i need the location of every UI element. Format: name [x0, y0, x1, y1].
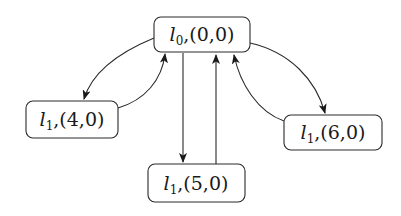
state-node-l0-0-0: l0,(0,0) [154, 17, 250, 52]
clock-valuation: ,(6,0) [314, 121, 365, 143]
clock-valuation: ,(4,0) [53, 108, 104, 130]
clock-valuation: ,(5,0) [177, 172, 228, 194]
state-node-l1-5-0: l1,(5,0) [148, 164, 245, 202]
edge-n3-to-n0 [234, 55, 284, 121]
location-subscript: 1 [307, 132, 315, 146]
location-subscript: 1 [46, 119, 54, 133]
location-subscript: 1 [170, 183, 178, 197]
state-node-l1-6-0: l1,(6,0) [284, 115, 382, 150]
edge-n0-to-n1 [84, 38, 154, 99]
state-node-l1-4-0: l1,(4,0) [26, 101, 118, 138]
state-graph: l0,(0,0) l1,(4,0) l1,(5,0) l1,(6,0) [0, 0, 401, 216]
edge-n1-to-n0 [118, 54, 165, 108]
edge-n0-to-n3 [250, 43, 325, 113]
clock-valuation: ,(0,0) [183, 23, 234, 45]
location-subscript: 0 [176, 34, 184, 48]
